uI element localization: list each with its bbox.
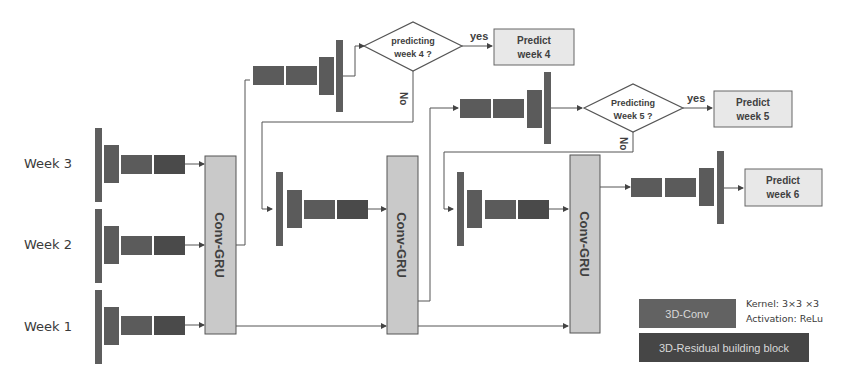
svg-text:week 6: week 6 [766, 189, 800, 200]
yes-label-2: yes [687, 92, 705, 104]
conv-gru-3: Conv-GRU [570, 155, 600, 333]
input-label-week1: Week 1 [24, 319, 72, 334]
decoder-week6 [631, 151, 724, 224]
legend-activation: Activation: ReLu [746, 313, 823, 324]
input-label-week2: Week 2 [24, 237, 72, 252]
decision-week5: Predicting Week 5 ? [584, 84, 683, 132]
conv-gru-1: Conv-GRU [205, 156, 236, 334]
svg-text:predicting: predicting [391, 36, 435, 46]
svg-text:Conv-GRU: Conv-GRU [577, 211, 592, 277]
encoder-mid-2 [457, 172, 549, 246]
svg-text:Conv-GRU: Conv-GRU [394, 212, 409, 278]
output-week4: Predict week 4 [494, 29, 574, 65]
encoder-mid-1 [276, 172, 368, 246]
output-week6: Predict week 6 [745, 169, 822, 206]
svg-text:week 5: week 5 [736, 111, 770, 122]
legend-residual-label: 3D-Residual building block [659, 342, 790, 354]
decision-week4: predicting week 4 ? [364, 22, 462, 71]
decoder-week4 [253, 40, 343, 112]
encoder-week1 [95, 290, 204, 364]
legend: 3D-Conv Kernel: 3×3 ×3 Activation: ReLu … [639, 298, 823, 362]
legend-conv-label: 3D-Conv [665, 308, 709, 320]
svg-text:Conv-GRU: Conv-GRU [212, 212, 227, 278]
svg-text:Predicting: Predicting [611, 98, 655, 108]
diagram-canvas: Week 3 Week 2 Week 1 Conv-GRU predicting… [0, 0, 842, 382]
conv-gru-2: Conv-GRU [387, 156, 418, 334]
encoder-week2 [95, 209, 204, 283]
svg-text:Predict: Predict [766, 175, 801, 186]
input-label-week3: Week 3 [24, 156, 72, 171]
decoder-week5 [460, 72, 551, 144]
legend-kernel: Kernel: 3×3 ×3 [746, 298, 819, 309]
output-week5: Predict week 5 [714, 91, 792, 127]
yes-label-1: yes [470, 30, 488, 42]
no-label-1: No [398, 92, 409, 105]
no-label-2: No [618, 137, 629, 150]
svg-text:week 4: week 4 [517, 49, 551, 60]
encoder-week3 [95, 128, 204, 202]
svg-text:Week 5 ?: Week 5 ? [614, 111, 653, 121]
svg-text:Predict: Predict [736, 97, 771, 108]
svg-text:week 4 ?: week 4 ? [393, 49, 432, 59]
svg-text:Predict: Predict [517, 35, 552, 46]
